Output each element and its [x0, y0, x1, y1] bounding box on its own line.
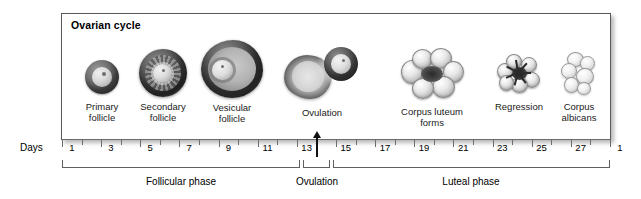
- phase-label-luteal: Luteal phase: [442, 176, 499, 187]
- axis-caption-days: Days: [20, 142, 43, 153]
- nucleus-icon: [221, 65, 224, 68]
- axis-day-label: 21: [458, 142, 469, 153]
- axis-tick: [610, 139, 611, 147]
- stage-label-corpus-luteum: Corpus luteum forms: [382, 107, 482, 128]
- axis-day-label: 1: [617, 142, 622, 153]
- vesicular-follicle-illustration: [201, 40, 263, 98]
- stage-corpus-albicans: Corpus albicans: [551, 52, 607, 123]
- axis-tick: [356, 139, 357, 145]
- axis-day-label: 1: [69, 142, 74, 153]
- axis-day-label: 13: [301, 142, 312, 153]
- axis-day-label: 11: [263, 142, 273, 153]
- stage-ovulation: Ovulation: [274, 47, 370, 119]
- axis-day-label: 17: [380, 142, 391, 153]
- axis-tick: [395, 139, 396, 145]
- axis-day-label: 5: [147, 142, 152, 153]
- stage-label-regression: Regression: [486, 102, 552, 113]
- axis-tick: [179, 139, 180, 147]
- bracket-luteal-phase: [333, 160, 610, 168]
- axis-tick: [473, 139, 474, 145]
- regressing-corpus-luteum-icon: [497, 54, 541, 94]
- oocyte-icon: [92, 67, 112, 87]
- axis-tick: [238, 139, 239, 145]
- nucleus-icon: [102, 72, 106, 76]
- axis-tick: [160, 139, 161, 145]
- follicular-fluid-icon: [292, 61, 324, 92]
- axis-day-label: 27: [575, 142, 586, 153]
- axis-tick: [571, 139, 572, 147]
- secondary-follicle-illustration: [139, 49, 187, 97]
- bracket-follicular-phase: [62, 160, 300, 168]
- corpus-luteum-illustration: [399, 48, 465, 100]
- lobe: [577, 82, 591, 95]
- axis-tick: [297, 139, 298, 147]
- ovarian-cycle-panel: Ovarian cycle Primary follicle Secondary…: [61, 13, 611, 140]
- axis-tick: [121, 139, 122, 145]
- oocyte-icon: [153, 64, 172, 83]
- axis-tick: [140, 139, 141, 147]
- axis-tick: [512, 139, 513, 145]
- regression-illustration: [497, 54, 541, 94]
- nucleus-icon: [342, 59, 345, 62]
- axis-tick: [434, 139, 435, 145]
- nucleus-icon: [162, 69, 165, 72]
- page-title: Ovarian cycle: [71, 19, 141, 31]
- axis-day-label: 19: [419, 142, 430, 153]
- axis-tick: [493, 139, 494, 147]
- bracket-ovulation: [303, 160, 330, 168]
- axis-tick: [101, 139, 102, 147]
- axis-tick: [414, 139, 415, 147]
- axis-day-label: 3: [108, 142, 113, 153]
- axis-day-label: 7: [187, 142, 192, 153]
- axis-tick: [62, 139, 63, 147]
- axis-tick: [336, 139, 337, 147]
- primary-follicle-illustration: [85, 60, 119, 96]
- ovulation-arrow-shaft-icon: [316, 136, 318, 157]
- axis-day-label: 25: [536, 142, 547, 153]
- stage-label-vesicular-follicle: Vesicular follicle: [190, 103, 274, 124]
- stage-corpus-luteum: Corpus luteum forms: [382, 48, 482, 128]
- ovarian-cycle-diagram: Ovarian cycle Primary follicle Secondary…: [0, 0, 641, 199]
- axis-day-label: 9: [226, 142, 231, 153]
- axis-tick: [199, 139, 200, 145]
- axis-tick: [590, 139, 591, 145]
- released-oocyte-icon: [324, 47, 358, 81]
- phase-label-follicular: Follicular phase: [146, 176, 216, 187]
- stage-label-ovulation: Ovulation: [274, 108, 370, 119]
- luteal-core-icon: [421, 66, 443, 82]
- axis-tick: [551, 139, 552, 145]
- phase-label-ovulation: Ovulation: [296, 176, 338, 187]
- corpus-albicans-illustration: [561, 52, 597, 96]
- axis-day-label: 15: [340, 142, 351, 153]
- axis-tick: [258, 139, 259, 147]
- stage-label-corpus-albicans: Corpus albicans: [551, 102, 607, 123]
- oocyte-cytoplasm-icon: [331, 54, 351, 74]
- axis-tick: [453, 139, 454, 147]
- axis-tick: [277, 139, 278, 145]
- axis-tick: [375, 139, 376, 147]
- axis-tick: [82, 139, 83, 145]
- corpus-albicans-icon: [561, 52, 597, 96]
- axis-tick: [219, 139, 220, 147]
- stage-vesicular-follicle: Vesicular follicle: [190, 40, 274, 124]
- axis-day-label: 23: [497, 142, 508, 153]
- axis-tick: [532, 139, 533, 147]
- oocyte-icon: [212, 60, 233, 80]
- stage-regression: Regression: [486, 54, 552, 113]
- corpus-luteum-icon: [399, 48, 465, 100]
- ovulation-illustration: [284, 47, 360, 99]
